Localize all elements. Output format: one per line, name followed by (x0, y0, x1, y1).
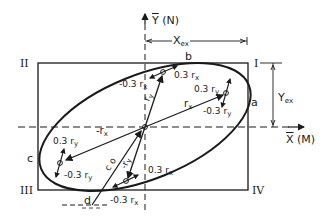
neg-rx-label: -rx (96, 126, 108, 138)
vector-c0 (92, 131, 141, 205)
point-b-label: b (185, 51, 192, 62)
neg-03ry-left-label: -0.3 ry (64, 171, 92, 182)
vector-neg-ry (128, 127, 145, 178)
point-d-label: d (84, 195, 91, 206)
x-ext-label: Xex (172, 35, 190, 48)
neg-03rx-top-label: -0.3 rx (119, 80, 147, 91)
quadrant-I-label: I (254, 58, 258, 69)
pos-03ry-right-label: 0.3 ry (194, 85, 219, 96)
x-axis-label: X (M) (286, 134, 315, 145)
rx-label: rx (184, 99, 192, 111)
quadrant-IV-label: IV (252, 185, 264, 196)
neg-03ry-right-label: -0.3 ry (203, 107, 231, 118)
pos-03rx-top-label: 0.3 rx (174, 71, 199, 82)
y-ext-label: Yex (278, 92, 293, 105)
diagram-canvas (0, 0, 336, 222)
pos-03ry-left-label: 0.3 ry (53, 137, 78, 148)
point-a-label: a (251, 97, 258, 108)
interaction-diagram: Y (N) X (M) Xex Yex I II III IV a b c d … (0, 0, 336, 222)
y-axis-label: Y (N) (152, 15, 179, 26)
quadrant-III-label: III (20, 185, 33, 196)
quadrant-II-label: II (20, 58, 29, 69)
point-c-label: c (27, 153, 33, 164)
neg-03rx-bottom-label: -0.3 rx (110, 196, 138, 207)
pos-03rx-bottom-label: 0.3 rx (148, 166, 173, 177)
